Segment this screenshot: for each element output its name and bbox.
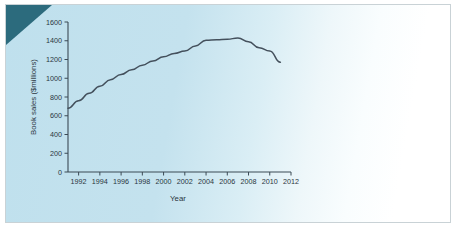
x-axis-tick-label: 1992 bbox=[71, 177, 87, 186]
y-axis-tick-label: 1200 bbox=[46, 55, 62, 64]
screenshot-root: 02004006008001000120014001600 1992199419… bbox=[0, 0, 458, 230]
x-axis-tick-label: 2002 bbox=[177, 177, 193, 186]
y-axis-title: Book sales ($millions) bbox=[29, 59, 38, 135]
y-axis-tick-labels: 02004006008001000120014001600 bbox=[46, 18, 62, 177]
scanned-page-frame: 02004006008001000120014001600 1992199419… bbox=[5, 4, 451, 223]
x-axis-tick-label: 1994 bbox=[92, 177, 108, 186]
y-axis-tick-label: 0 bbox=[58, 168, 62, 177]
book-sales-series-line bbox=[68, 38, 280, 108]
x-axis-tick-label: 2012 bbox=[283, 177, 299, 186]
y-axis-tick-label: 600 bbox=[50, 111, 62, 120]
y-axis-tick-label: 1000 bbox=[46, 74, 62, 83]
y-axis-tick-label: 1400 bbox=[46, 36, 62, 45]
x-axis-tick-label: 2010 bbox=[262, 177, 278, 186]
y-axis-tick-label: 200 bbox=[50, 149, 62, 158]
x-axis-tick-label: 2006 bbox=[219, 177, 235, 186]
x-axis-title: Year bbox=[170, 194, 186, 203]
line-chart: 02004006008001000120014001600 1992199419… bbox=[6, 5, 451, 223]
x-axis-tick-label: 2000 bbox=[156, 177, 172, 186]
y-axis-tick-label: 400 bbox=[50, 130, 62, 139]
x-axis-tick-label: 2004 bbox=[198, 177, 214, 186]
x-axis-tick-labels: 1992199419961998200020022004200620082010… bbox=[71, 177, 299, 186]
x-axis-tick-label: 2008 bbox=[241, 177, 257, 186]
x-axis-tick-label: 1996 bbox=[113, 177, 129, 186]
y-axis-tick-label: 800 bbox=[50, 93, 62, 102]
x-axis-tick-label: 1998 bbox=[134, 177, 150, 186]
chart-svg: 02004006008001000120014001600 1992199419… bbox=[6, 5, 451, 223]
y-axis-tick-label: 1600 bbox=[46, 18, 62, 27]
